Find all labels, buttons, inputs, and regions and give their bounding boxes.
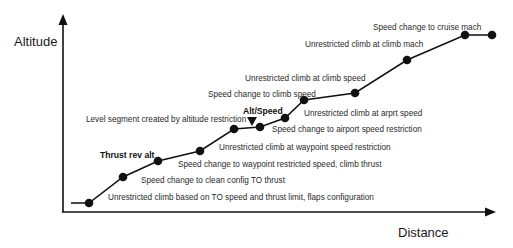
x-axis-label: Distance xyxy=(398,225,449,240)
y-axis-arrow-icon xyxy=(59,14,68,25)
alt-speed-label: Alt/Speed xyxy=(243,106,283,116)
annotation-climb-speed-change: Speed change to climb speed xyxy=(208,90,316,99)
annotation-waypoint-speed-change: Speed change to waypoint restricted spee… xyxy=(178,160,382,169)
point-cruise xyxy=(488,31,497,40)
alt-speed-triangle-icon xyxy=(247,117,257,126)
x-axis-arrow-icon xyxy=(485,208,496,217)
climb-profile-diagram: Altitude Distance Thrust rev alt Alt/Spe… xyxy=(0,0,513,248)
thrust-rev-alt-label: Thrust rev alt xyxy=(100,150,155,160)
annotation-waypoint-climb: Unrestricted climb at waypoint speed res… xyxy=(219,143,391,152)
point-climb-speed xyxy=(351,89,360,98)
annotation-level-segment: Level segment created by altitude restri… xyxy=(86,115,247,124)
point-takeoff xyxy=(85,199,94,208)
annotation-airport-speed: Speed change to airport speed restrictio… xyxy=(272,125,422,134)
point-level-start xyxy=(230,125,239,134)
annotation-takeoff-climb: Unrestricted climb based on TO speed and… xyxy=(108,193,374,202)
annotation-cruise-mach: Speed change to cruise mach xyxy=(373,23,482,32)
y-axis-label: Altitude xyxy=(14,34,57,49)
annotation-climb-speed: Unrestricted climb at climb speed xyxy=(245,74,366,83)
annotation-climb-mach: Unrestricted climb at climb mach xyxy=(305,40,424,49)
point-clean-config xyxy=(119,173,128,182)
annotation-clean-config: Speed change to clean config TO thrust xyxy=(141,176,286,185)
point-waypoint-speed xyxy=(196,147,205,156)
point-alt-speed xyxy=(256,123,265,132)
annotation-arprt-speed: Unrestricted climb at arprt speed xyxy=(304,109,423,118)
point-thrust-rev-alt xyxy=(154,157,163,166)
point-climb-mach xyxy=(403,56,412,65)
